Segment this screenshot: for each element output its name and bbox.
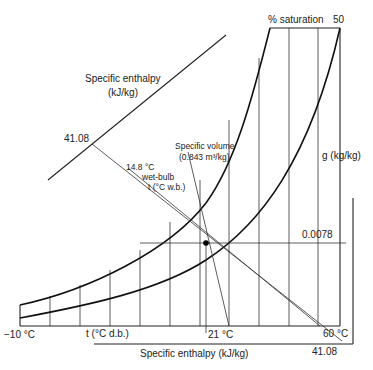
moisture-value: 0.0078 xyxy=(302,229,333,240)
enthalpy-unit-label: (kJ/kg) xyxy=(108,87,138,98)
temp-point-label: 21 °C xyxy=(208,329,233,340)
temp-max-label: 60 °C xyxy=(323,328,348,339)
enthalpy-value-bottom: 41.08 xyxy=(312,346,337,357)
enthalpy-bottom-label: Specific enthalpy (kJ/kg) xyxy=(140,348,248,359)
saturation-label: % saturation xyxy=(268,14,324,25)
psychrometric-chart: % saturation 50 Specific enthalpy (kJ/kg… xyxy=(0,0,373,370)
saturation-50-curve xyxy=(20,28,340,318)
enthalpy-axis-label: Specific enthalpy xyxy=(85,73,161,84)
wet-bulb-label: wet-bulb xyxy=(141,172,174,182)
saturation-value: 50 xyxy=(333,14,345,25)
moisture-axis-label: g (kg/kg) xyxy=(322,150,361,161)
state-point xyxy=(203,240,209,246)
enthalpy-value-top: 41.08 xyxy=(64,133,89,144)
specific-volume-label: Specific volume xyxy=(175,141,235,151)
temp-min-label: −10 °C xyxy=(4,329,35,340)
wet-bulb-axis-label: t (°C w.b.) xyxy=(148,182,186,192)
wet-bulb-value: 14.8 °C xyxy=(126,162,154,172)
dry-bulb-axis-label: t (°C d.b.) xyxy=(86,328,129,339)
enthalpy-bottom-axis xyxy=(94,198,353,344)
enthalpy-line xyxy=(92,144,342,341)
specific-volume-line xyxy=(188,152,229,326)
specific-volume-value: (0.843 m³/kg) xyxy=(179,152,230,162)
